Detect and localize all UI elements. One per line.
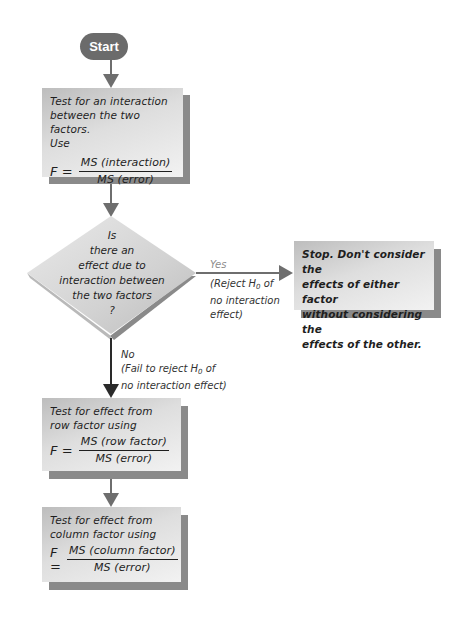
yes-note: (Reject H0 of no interaction effect): [210, 277, 280, 322]
stop-box: Stop. Don't consider the effects of eith…: [294, 241, 434, 310]
start-terminal: Start: [80, 33, 128, 60]
interaction-formula: F = MS (interaction) MS (error): [50, 156, 175, 187]
yes-label: Yes: [210, 259, 226, 270]
interaction-test-box: Test for an interaction between the two …: [42, 88, 183, 177]
column-factor-test-box: Test for effect from column factor using…: [42, 507, 181, 582]
no-note: No (Fail to reject H0 of no interaction …: [121, 348, 227, 393]
decision-text: Is there an effect due to interaction be…: [28, 228, 196, 318]
column-formula: F = MS (column factor) MS (error): [50, 544, 173, 575]
interaction-emphasis: interaction: [110, 95, 168, 107]
no-label: No: [121, 348, 227, 362]
row-factor-test-box: Test for effect from row factor using F …: [42, 398, 181, 471]
row-formula: F = MS (row factor) MS (error): [50, 435, 173, 466]
start-label: Start: [89, 39, 119, 54]
